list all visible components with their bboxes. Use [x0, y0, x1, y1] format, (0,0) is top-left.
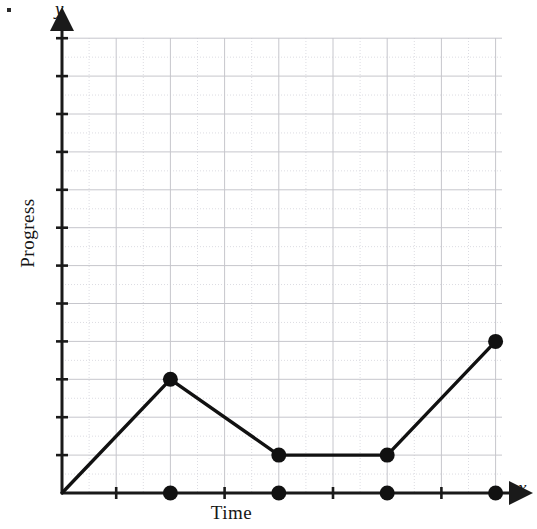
chart-canvas	[0, 0, 537, 529]
chart-figure: y x Progress Time	[0, 0, 537, 529]
